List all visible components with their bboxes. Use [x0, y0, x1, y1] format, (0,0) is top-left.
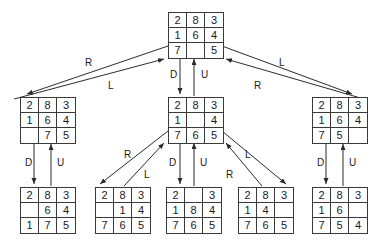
level2-state-c: 23184765: [166, 187, 222, 234]
puzzle-tile: 6: [331, 113, 349, 128]
puzzle-tile: [96, 203, 114, 218]
puzzle-tile: 5: [57, 218, 75, 233]
puzzle-tile: 5: [57, 128, 75, 143]
puzzle-tile: 8: [187, 98, 205, 113]
puzzle-tile: 7: [313, 218, 331, 233]
level2-state-e: 28316754: [312, 187, 368, 234]
puzzle-tile: 7: [39, 128, 57, 143]
puzzle-tile: 1: [313, 113, 331, 128]
puzzle-tile: 4: [257, 203, 275, 218]
puzzle-tile: 8: [39, 98, 57, 113]
edge-middle-to-b-outer: [100, 131, 168, 184]
search-tree-diagram: 2831647528316475283147652831647528364175…: [0, 0, 374, 246]
puzzle-tile: 4: [205, 28, 223, 43]
puzzle-tile: 3: [57, 188, 75, 203]
puzzle-tile: [21, 203, 39, 218]
edge-label-left-down-u: U: [57, 158, 64, 168]
level1-right-state: 28316475: [312, 97, 368, 144]
puzzle-tile: 1: [239, 203, 257, 218]
puzzle-tile: 2: [239, 188, 257, 203]
puzzle-tile: 4: [203, 203, 221, 218]
puzzle-tile: 8: [114, 188, 132, 203]
puzzle-tile: 5: [132, 218, 150, 233]
puzzle-tile: 4: [57, 203, 75, 218]
puzzle-tile: 3: [349, 98, 367, 113]
puzzle-tile: 7: [39, 218, 57, 233]
edge-label-root-left-r: R: [85, 58, 92, 68]
puzzle-tile: 1: [169, 28, 187, 43]
puzzle-tile: 2: [96, 188, 114, 203]
puzzle-tile: 1: [313, 203, 331, 218]
puzzle-tile: 4: [205, 113, 223, 128]
puzzle-tile: 3: [57, 98, 75, 113]
puzzle-tile: 8: [331, 98, 349, 113]
puzzle-tile: 8: [257, 188, 275, 203]
puzzle-tile: 3: [203, 188, 221, 203]
puzzle-tile: 6: [257, 218, 275, 233]
puzzle-tile: [275, 203, 293, 218]
puzzle-tile: 4: [132, 203, 150, 218]
puzzle-tile: 8: [331, 188, 349, 203]
puzzle-tile: 1: [21, 113, 39, 128]
puzzle-tile: [185, 188, 203, 203]
root-state: 28316475: [168, 12, 224, 59]
edge-label-mid-down-d: D: [169, 158, 176, 168]
edge-label-root-left-l: L: [108, 81, 114, 91]
level1-middle-state: 28314765: [168, 97, 224, 144]
edge-label-root-middle-u: U: [201, 70, 208, 80]
level2-state-a: 28364175: [20, 187, 76, 234]
puzzle-tile: 3: [275, 188, 293, 203]
puzzle-tile: 6: [39, 113, 57, 128]
puzzle-tile: 7: [169, 128, 187, 143]
edge-label-right-down-d: D: [317, 158, 324, 168]
puzzle-tile: 1: [169, 113, 187, 128]
puzzle-tile: 6: [187, 28, 205, 43]
puzzle-tile: 3: [349, 188, 367, 203]
puzzle-tile: 7: [169, 43, 187, 58]
puzzle-tile: 7: [96, 218, 114, 233]
level1-left-state: 28316475: [20, 97, 76, 144]
edge-label-left-down-d: D: [25, 158, 32, 168]
puzzle-tile: 2: [21, 188, 39, 203]
puzzle-tile: 5: [275, 218, 293, 233]
edge-root-to-left-outer: [27, 46, 168, 94]
edge-label-mid-right-r: R: [226, 170, 233, 180]
puzzle-tile: [349, 128, 367, 143]
puzzle-tile: 5: [205, 43, 223, 58]
edge-label-root-right-l: L: [279, 58, 285, 68]
edge-label-mid-right-l: L: [245, 150, 251, 160]
puzzle-tile: 8: [39, 188, 57, 203]
puzzle-tile: 4: [57, 113, 75, 128]
puzzle-tile: 3: [205, 13, 223, 28]
edge-label-mid-left-l: L: [144, 170, 150, 180]
level2-state-d: 28314765: [238, 187, 294, 234]
puzzle-tile: 6: [185, 218, 203, 233]
puzzle-tile: 1: [114, 203, 132, 218]
puzzle-tile: 5: [203, 218, 221, 233]
puzzle-tile: 6: [331, 203, 349, 218]
puzzle-tile: 5: [331, 128, 349, 143]
puzzle-tile: 5: [331, 218, 349, 233]
edge-root-to-right-outer: [222, 46, 352, 94]
puzzle-tile: 5: [205, 128, 223, 143]
puzzle-tile: [187, 43, 205, 58]
puzzle-tile: 3: [132, 188, 150, 203]
puzzle-tile: 2: [167, 188, 185, 203]
puzzle-tile: 2: [169, 98, 187, 113]
puzzle-tile: [21, 128, 39, 143]
edge-right-to-root-inner: [226, 59, 364, 99]
edge-label-root-middle-d: D: [170, 70, 177, 80]
edge-label-right-down-u: U: [349, 158, 356, 168]
puzzle-tile: 4: [349, 218, 367, 233]
puzzle-tile: 7: [167, 218, 185, 233]
puzzle-tile: 7: [313, 128, 331, 143]
puzzle-tile: 2: [313, 188, 331, 203]
edge-label-mid-left-r: R: [124, 150, 131, 160]
puzzle-tile: 3: [205, 98, 223, 113]
puzzle-tile: 1: [167, 203, 185, 218]
puzzle-tile: 7: [239, 218, 257, 233]
puzzle-tile: 4: [349, 113, 367, 128]
puzzle-tile: 2: [21, 98, 39, 113]
edge-label-mid-down-u: U: [200, 158, 207, 168]
puzzle-tile: 8: [187, 13, 205, 28]
